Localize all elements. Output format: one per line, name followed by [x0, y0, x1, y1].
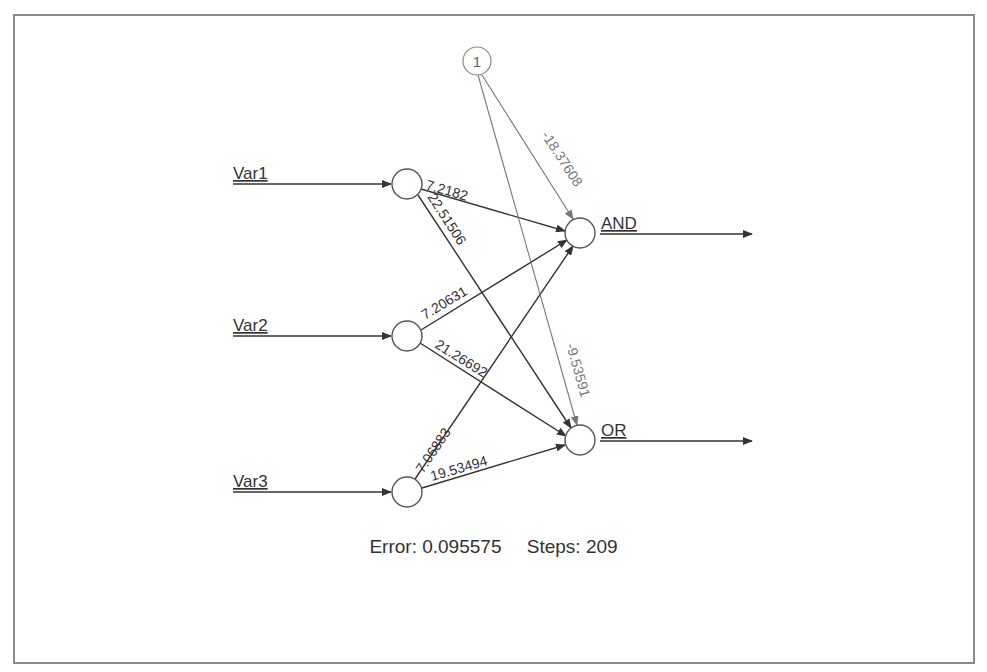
weight-label-var2-and: 7.20631: [418, 283, 470, 323]
bias-node-label: 1: [473, 53, 481, 70]
output-node-or: [565, 425, 595, 455]
input-label-var3: Var3: [233, 472, 268, 491]
output-label-or: OR: [601, 421, 627, 440]
input-node-var1: [392, 169, 422, 199]
input-node-var3: [392, 477, 422, 507]
input-label-var2: Var2: [233, 316, 268, 335]
bias-edges: [478, 75, 577, 425]
input-edges: [233, 184, 391, 492]
steps-value: Steps: 209: [527, 536, 618, 557]
weight-label-bias-and: -18.37608: [538, 128, 586, 190]
output-node-and: [565, 218, 595, 248]
error-value: Error: 0.095575: [369, 536, 501, 557]
training-summary: Error: 0.095575 Steps: 209: [0, 536, 987, 558]
input-node-var2: [392, 321, 422, 351]
weight-label-var2-or: 21.26692: [432, 336, 490, 381]
input-label-var1: Var1: [233, 164, 268, 183]
output-edges: [600, 234, 752, 441]
neural-network-diagram: Var1 Var2 Var3 AND OR 1 7.2182 22.51506 …: [0, 0, 987, 672]
output-label-and: AND: [601, 214, 637, 233]
